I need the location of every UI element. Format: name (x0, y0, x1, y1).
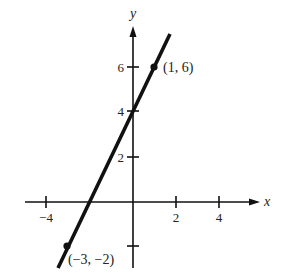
y-axis-label: y (128, 6, 137, 21)
y-tick-label: 6 (118, 60, 125, 75)
y-tick-label: 2 (118, 150, 125, 165)
x-tick-label: 2 (173, 210, 180, 225)
line-graph: −4 2 4 x 6 4 2 y (1, 6) (−3, −2) (0, 0, 285, 279)
x-tick-label: 4 (216, 210, 223, 225)
point-1-6 (150, 63, 157, 70)
point-label-neg3-neg2: (−3, −2) (68, 252, 114, 268)
x-axis-label: x (263, 194, 271, 209)
graph-canvas: −4 2 4 x 6 4 2 y (1, 6) (−3, −2) (0, 0, 285, 279)
point-neg3-neg2 (63, 242, 70, 249)
x-axis-arrow-icon (249, 199, 260, 206)
x-axis: −4 2 4 x (25, 194, 271, 225)
y-tick-label: 4 (118, 104, 125, 119)
point-label-1-6: (1, 6) (163, 60, 194, 76)
x-tick-label: −4 (39, 210, 53, 225)
y-axis-arrow-icon (130, 26, 137, 37)
